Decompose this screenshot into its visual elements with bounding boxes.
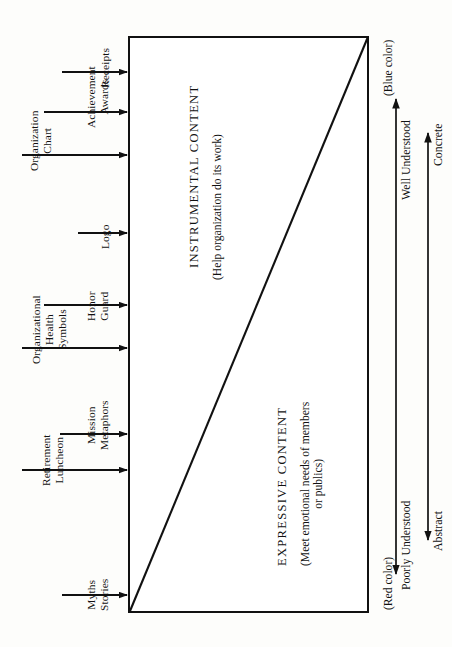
axis-label-concrete: Concrete [432,123,445,166]
item-label-mission-metaphors: Mission Metaphors [85,400,111,450]
item-label-achievement-awards: Achievement Awards [85,66,111,128]
item-label-myths-stories: Myths Stories [85,579,111,611]
zone-subtitle-expressive: (Meet emotional needs of members or publ… [299,402,325,566]
item-label-organizational-health-symbols: Organizational Health Symbols [30,295,68,364]
axis-label-abstract: Abstract [432,511,445,551]
figure-canvas: Receipts Achievement Awards Organization… [0,0,452,647]
zone-title-instrumental: INSTRUMENTAL CONTENT [187,85,201,268]
axis-label-well-understood: Well Understood [400,120,413,200]
item-label-retirement-luncheon: Retirement Luncheon [40,434,66,486]
zone-subtitle-instrumental: (Help organization do its work) [211,134,224,280]
color-label-blue: (Blue color) [382,40,395,96]
diagonal-divider [130,38,368,611]
color-label-red: (Red color) [382,557,395,610]
item-label-logo: Logo [99,225,112,249]
item-label-honor-guard: Honor Guard [85,291,111,321]
zone-title-expressive: EXPRESSIVE CONTENT [275,407,289,566]
axis-label-poorly-understood: Poorly Understood [400,501,413,590]
item-label-organization-chart: Organization Chart [28,111,54,171]
